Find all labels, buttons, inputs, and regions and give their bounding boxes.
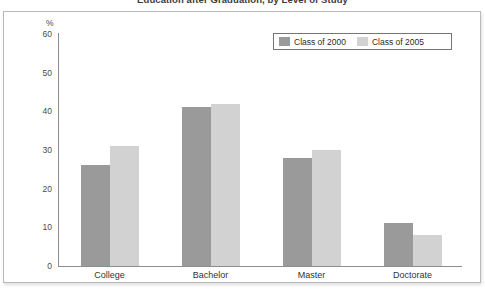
legend-swatch-icon [279,37,290,46]
legend-swatch-icon [357,37,368,46]
bar-doctorate-series-1 [413,235,442,266]
x-axis-line [58,266,462,267]
bar-college-series-1 [110,146,139,266]
y-tick-label: 40 [26,107,52,116]
y-tick-label: 30 [26,146,52,155]
y-axis-line [58,33,59,267]
bar-doctorate-series-0 [384,223,413,266]
x-tick-label-college: College [59,270,160,280]
bar-college-series-0 [81,165,110,266]
y-tick-label: 10 [26,223,52,232]
legend-label: Class of 2005 [372,37,424,47]
legend-item-1[interactable]: Class of 2005 [357,37,424,47]
y-tick-label: 0 [26,262,52,271]
bar-master-series-1 [312,150,341,266]
y-axis-unit-label: % [46,18,54,28]
bar-master-series-0 [283,158,312,266]
bar-bachelor-series-1 [211,104,240,266]
x-tick-label-master: Master [261,270,362,280]
bar-bachelor-series-0 [182,107,211,266]
plot-area: % 0102030405060 CollegeBachelorMasterDoc… [4,12,482,284]
page-title: Education after Graduation, by Level of … [137,0,348,5]
x-tick-label-doctorate: Doctorate [362,270,463,280]
legend-label: Class of 2000 [294,37,346,47]
x-tick-label-bachelor: Bachelor [160,270,261,280]
y-tick-label: 20 [26,185,52,194]
chart-title-strip: Education after Graduation, by Level of … [0,0,485,9]
chart-frame: % 0102030405060 CollegeBachelorMasterDoc… [3,11,481,283]
chart-legend[interactable]: Class of 2000Class of 2005 [273,33,452,50]
chart-screenshot: Education after Graduation, by Level of … [0,0,485,292]
y-tick-label: 60 [26,30,52,39]
y-tick-label: 50 [26,69,52,78]
legend-item-0[interactable]: Class of 2000 [279,37,346,47]
